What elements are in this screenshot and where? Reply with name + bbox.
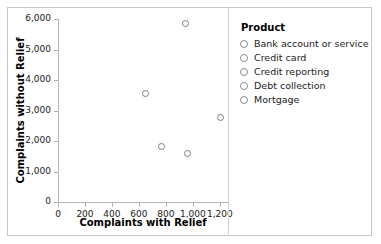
- legend-item-label: Bank account or service: [254, 37, 369, 50]
- visualization-frame: Complaints without Relief 01,0002,0003,0…: [7, 7, 372, 236]
- x-axis-tick-mark: [112, 203, 113, 207]
- legend-item[interactable]: Mortgage: [240, 93, 370, 106]
- data-point[interactable]: [142, 90, 149, 97]
- legend-item-label: Mortgage: [254, 93, 299, 106]
- x-axis-tick-mark: [58, 203, 59, 207]
- data-point[interactable]: [184, 150, 191, 157]
- x-axis-tick-mark: [139, 203, 140, 207]
- x-axis-tick-mark: [85, 203, 86, 207]
- y-axis-tick-label: 1,000: [25, 166, 51, 176]
- data-point[interactable]: [182, 20, 189, 27]
- data-point[interactable]: [158, 143, 165, 150]
- y-axis-tick-label: 2,000: [25, 135, 51, 145]
- legend-marker-circle-icon: [240, 40, 248, 48]
- x-axis-tick-mark: [193, 203, 194, 207]
- legend-marker-circle-icon: [240, 68, 248, 76]
- legend-title: Product: [241, 22, 370, 33]
- plot-area: [58, 19, 228, 202]
- x-axis-tick-mark: [166, 203, 167, 207]
- y-axis-tick-label: 4,000: [25, 74, 51, 84]
- x-axis-line: [58, 202, 228, 203]
- y-axis-tick-label: 0: [45, 196, 51, 206]
- legend-item[interactable]: Credit reporting: [240, 65, 370, 78]
- y-axis-tick-label: 5,000: [25, 44, 51, 54]
- y-axis-tick-label: 6,000: [25, 13, 51, 23]
- x-axis-title: Complaints with Relief: [58, 217, 228, 228]
- legend: Product Bank account or serviceCredit ca…: [240, 22, 370, 107]
- legend-item-label: Credit card: [254, 51, 306, 64]
- legend-item-label: Debt collection: [254, 79, 326, 92]
- legend-item[interactable]: Bank account or service: [240, 37, 370, 50]
- legend-item[interactable]: Credit card: [240, 51, 370, 64]
- legend-item[interactable]: Debt collection: [240, 79, 370, 92]
- scatter-plot-pane: Complaints without Relief 01,0002,0003,0…: [8, 8, 228, 236]
- legend-marker-circle-icon: [240, 82, 248, 90]
- legend-item-list: Bank account or serviceCredit cardCredit…: [240, 37, 370, 106]
- legend-item-label: Credit reporting: [254, 65, 329, 78]
- pane-divider: [228, 8, 229, 236]
- data-point[interactable]: [217, 114, 224, 121]
- y-axis-tick-label: 3,000: [25, 105, 51, 115]
- legend-marker-circle-icon: [240, 96, 248, 104]
- x-axis-tick-mark: [220, 203, 221, 207]
- legend-marker-circle-icon: [240, 54, 248, 62]
